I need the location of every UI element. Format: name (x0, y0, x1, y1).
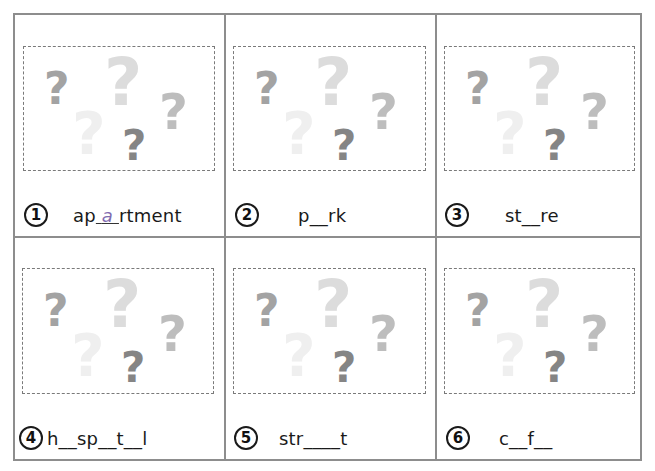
answer-blank-filled[interactable]: a (96, 205, 119, 226)
picture-placeholder: ? ? ? ? ? (233, 46, 426, 171)
item-number-badge: 6 (446, 426, 470, 450)
word-suffix: rtment (119, 205, 182, 226)
item-word[interactable]: h__sp__t__l (47, 428, 147, 449)
question-mark-icon: ? (314, 272, 352, 338)
question-mark-icon: ? (543, 125, 567, 167)
question-mark-icon: ? (369, 87, 398, 137)
question-mark-icon: ? (254, 67, 280, 111)
question-mark-icon: ? (254, 289, 280, 333)
question-mark-icon: ? (580, 87, 609, 137)
question-mark-icon: ? (104, 50, 142, 116)
item-word[interactable]: st__re (505, 205, 559, 226)
item-word[interactable]: str____t (279, 428, 348, 449)
question-mark-icon: ? (159, 87, 188, 137)
question-mark-icon: ? (72, 105, 106, 163)
question-mark-icon: ? (314, 50, 352, 116)
question-mark-icon: ? (580, 309, 609, 359)
question-mark-icon: ? (543, 347, 567, 389)
answer-letter: a (102, 205, 113, 226)
question-mark-icon: ? (71, 327, 105, 385)
picture-placeholder: ? ? ? ? ? (22, 268, 214, 394)
item-label: 5 str____t (234, 421, 348, 455)
question-mark-icon: ? (103, 272, 141, 338)
item-number-badge: 4 (19, 426, 43, 450)
question-mark-icon: ? (158, 309, 187, 359)
picture-placeholder: ? ? ? ? ? (233, 268, 426, 394)
item-number-badge: 5 (234, 426, 258, 450)
question-mark-icon: ? (525, 50, 563, 116)
picture-placeholder: ? ? ? ? ? (444, 268, 635, 394)
word-prefix: ap (73, 205, 96, 226)
question-mark-icon: ? (465, 289, 491, 333)
item-number-badge: 3 (445, 203, 469, 227)
question-mark-icon: ? (465, 67, 491, 111)
question-mark-icon: ? (332, 347, 356, 389)
item-number-badge: 2 (235, 203, 259, 227)
item-label: 6 c__f__ (446, 421, 552, 455)
question-mark-icon: ? (122, 125, 146, 167)
item-label: 1 ap a rtment (24, 198, 182, 232)
question-mark-icon: ? (493, 105, 527, 163)
question-mark-icon: ? (369, 309, 398, 359)
item-number-badge: 1 (24, 203, 48, 227)
question-mark-icon: ? (282, 105, 316, 163)
item-word[interactable]: c__f__ (499, 428, 552, 449)
question-mark-icon: ? (44, 67, 70, 111)
question-mark-icon: ? (121, 347, 145, 389)
picture-placeholder: ? ? ? ? ? (444, 46, 635, 171)
item-label: 3 st__re (445, 198, 559, 232)
question-mark-icon: ? (282, 327, 316, 385)
item-label: 2 p__rk (235, 198, 346, 232)
picture-placeholder: ? ? ? ? ? (23, 46, 215, 171)
item-word: ap a rtment (73, 205, 182, 226)
question-mark-icon: ? (43, 289, 69, 333)
question-mark-icon: ? (493, 327, 527, 385)
item-word[interactable]: p__rk (298, 205, 346, 226)
question-mark-icon: ? (332, 125, 356, 167)
item-label: 4 h__sp__t__l (19, 421, 147, 455)
question-mark-icon: ? (525, 272, 563, 338)
grid-divider (15, 236, 640, 238)
